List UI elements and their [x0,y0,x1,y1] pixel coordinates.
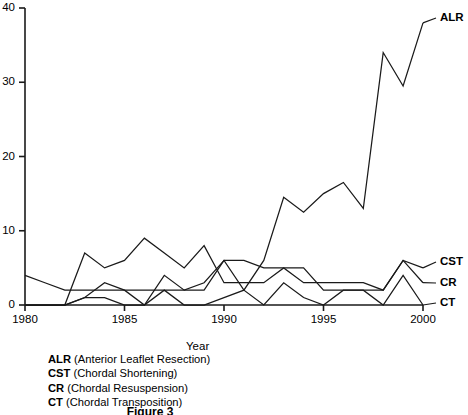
legend-item-alr: ALR (Anterior Leaflet Resection) [48,352,210,366]
series-end-labels: ALRCSTCRCT [423,11,464,308]
x-tick-label: 1985 [112,313,138,325]
series-leader-ct [423,303,436,305]
legend-item-cr: CR (Chordal Resuspension) [48,381,210,395]
legend-abbr-cr: CR [48,382,64,394]
legend-abbr-alr: ALR [48,353,71,365]
x-axis-ticks: 19801985199019952000 [12,305,436,325]
series-end-label-ct: CT [440,296,455,308]
y-tick-label: 30 [2,75,15,87]
series-end-label-cst: CST [440,255,463,267]
series-leader-cst [423,262,436,268]
legend-abbr-cst: CST [48,367,70,379]
legend-full-cst: (Chordal Shortening) [73,367,177,379]
x-axis-title: Year [186,340,209,352]
chart-series-lines [25,23,423,305]
series-line-cst [25,260,423,290]
x-tick-label: 1980 [12,313,38,325]
legend-item-cst: CST (Chordal Shortening) [48,366,210,380]
x-tick-label: 1990 [211,313,237,325]
x-tick-label: 1995 [311,313,337,325]
series-leader-alr [423,18,436,23]
figure-3-container: 010203040 19801985199019952000 ALRCSTCRC… [0,0,468,415]
series-line-alr [25,23,423,305]
legend-full-alr: (Anterior Leaflet Resection) [74,353,210,365]
y-tick-label: 0 [9,298,15,310]
x-tick-label: 2000 [410,313,436,325]
series-end-label-alr: ALR [440,11,464,23]
chart-legend: ALR (Anterior Leaflet Resection) CST (Ch… [48,352,210,410]
legend-full-cr: (Chordal Resuspension) [67,382,188,394]
series-line-cr [25,238,423,305]
y-tick-label: 20 [2,150,15,162]
y-axis-ticks: 010203040 [2,1,25,310]
line-chart-plot: 010203040 19801985199019952000 ALRCSTCRC… [0,0,468,340]
figure-caption: Figure 3 [0,405,300,415]
series-end-label-cr: CR [440,276,457,288]
y-tick-label: 10 [2,224,15,236]
y-tick-label: 40 [2,1,15,13]
